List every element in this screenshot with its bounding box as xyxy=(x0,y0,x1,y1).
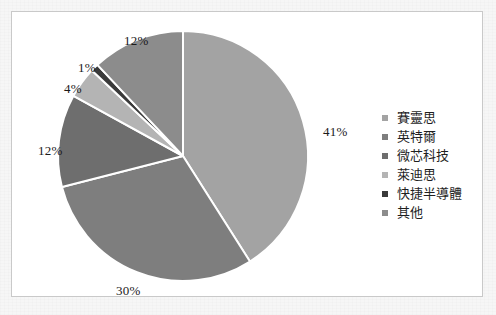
legend-item[interactable]: 微芯科技 xyxy=(382,146,494,165)
legend-swatch-icon xyxy=(382,115,388,121)
legend-item-label: 其他 xyxy=(397,205,423,220)
legend-swatch-icon xyxy=(382,191,388,197)
legend-item[interactable]: 賽靈思 xyxy=(382,108,494,127)
legend-item-label: 賽靈思 xyxy=(397,110,436,125)
pie-value-label: 4% xyxy=(64,81,82,97)
legend-swatch-icon xyxy=(382,134,388,140)
pie-value-label: 1% xyxy=(78,60,96,76)
legend-swatch-icon xyxy=(382,210,388,216)
chart-screenshot: 41%30%12%4%1%12% 賽靈思英特爾微芯科技萊迪思快捷半導體其他 xyxy=(0,0,496,315)
legend-item-label: 英特爾 xyxy=(397,129,436,144)
legend-item-label: 萊迪思 xyxy=(397,167,436,182)
legend-swatch-icon xyxy=(382,172,388,178)
legend-item[interactable]: 萊迪思 xyxy=(382,165,494,184)
pie-value-label: 12% xyxy=(38,143,62,159)
chart-frame: 41%30%12%4%1%12% 賽靈思英特爾微芯科技萊迪思快捷半導體其他 xyxy=(11,11,483,297)
legend-item[interactable]: 其他 xyxy=(382,203,494,222)
legend-item-label: 快捷半導體 xyxy=(397,186,462,201)
legend-item-label: 微芯科技 xyxy=(397,148,449,163)
pie-value-label: 12% xyxy=(124,33,148,49)
legend-item[interactable]: 英特爾 xyxy=(382,127,494,146)
chart-legend: 賽靈思英特爾微芯科技萊迪思快捷半導體其他 xyxy=(382,108,494,222)
legend-item[interactable]: 快捷半導體 xyxy=(382,184,494,203)
pie-value-label: 41% xyxy=(323,124,347,140)
pie-value-label: 30% xyxy=(116,283,140,299)
legend-swatch-icon xyxy=(382,153,388,159)
